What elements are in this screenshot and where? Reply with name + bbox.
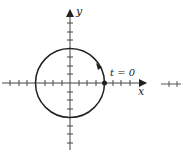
diagram-canvas: y x t = 0: [0, 0, 185, 157]
start-point-label: t = 0: [110, 67, 136, 78]
x-axis-label: x: [138, 85, 145, 98]
y-axis-label: y: [75, 5, 83, 18]
adjacent-axis-fragment: [161, 81, 181, 87]
start-point: [102, 81, 107, 86]
